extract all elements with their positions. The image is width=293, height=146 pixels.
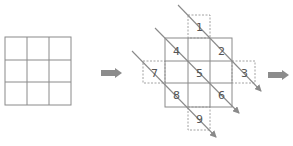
right-block-arrow-icon	[101, 68, 122, 78]
cell-number-1: 1	[196, 21, 203, 34]
cell-number-4: 4	[173, 45, 180, 58]
cell-number-3: 3	[241, 67, 248, 80]
cell-number-2: 2	[218, 45, 225, 58]
diagram-canvas: 1 4 2 7 5 3 8 6 9	[0, 0, 293, 146]
cell-number-6: 6	[218, 89, 225, 102]
cell-number-5: 5	[196, 67, 203, 80]
cell-number-8: 8	[173, 89, 180, 102]
cell-numbers: 1 4 2 7 5 3 8 6 9	[151, 21, 248, 126]
left-grid	[5, 37, 71, 105]
right-block-arrow-icon-2	[268, 70, 289, 80]
cell-number-7: 7	[151, 67, 158, 80]
cell-number-9: 9	[196, 113, 203, 126]
